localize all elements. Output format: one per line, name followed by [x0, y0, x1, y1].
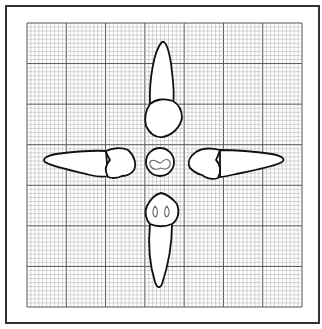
tooth-diagram [0, 0, 322, 329]
tooth-occlusal [146, 148, 174, 176]
